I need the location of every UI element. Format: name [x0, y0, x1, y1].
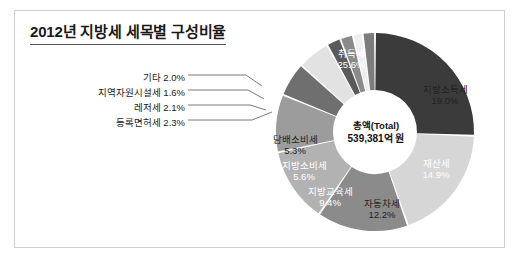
leader-line-regional-resource [188, 90, 264, 99]
leader-line-registration-license [188, 112, 272, 120]
callout-label-regional-resource-tax: 지역자원시설세 1.6% [98, 85, 185, 99]
leader-line-leisure [188, 105, 266, 110]
leader-line-etc [188, 75, 262, 86]
donut-chart [0, 0, 525, 261]
donut-center-total: 총액(Total) 539,381억 원 [330, 120, 422, 145]
callout-leader-lines [188, 75, 272, 120]
callout-label-etc: 기타 2.0% [143, 70, 185, 84]
callout-label-registration-license-tax: 등록면허세 2.3% [116, 115, 185, 129]
callout-label-leisure-tax: 레저세 2.1% [134, 100, 185, 114]
